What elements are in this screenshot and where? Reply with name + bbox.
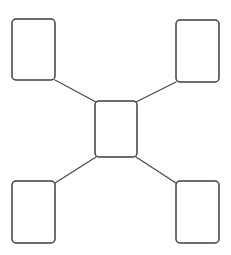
node-box-center[interactable]	[95, 101, 137, 157]
connector-center-to-top-right[interactable]	[136, 82, 176, 102]
diagram-svg	[0, 0, 231, 255]
node-box-top-left[interactable]	[12, 19, 55, 80]
node-box-top-right[interactable]	[176, 20, 219, 82]
diagram-canvas	[0, 0, 231, 255]
connector-center-to-bottom-left[interactable]	[55, 157, 96, 183]
connector-center-to-bottom-right[interactable]	[136, 157, 176, 183]
node-group	[12, 19, 219, 243]
node-box-bottom-right[interactable]	[176, 181, 219, 243]
node-box-bottom-left[interactable]	[12, 181, 55, 243]
connector-center-to-top-left[interactable]	[55, 80, 96, 102]
